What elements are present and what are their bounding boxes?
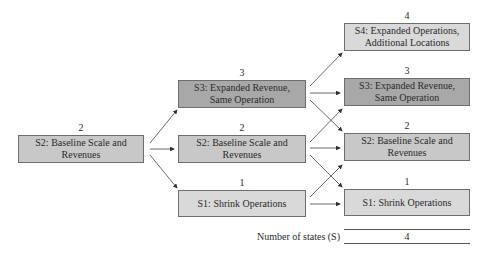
col2-s3-box: S3: Expanded Revenue, Same Operation: [344, 78, 470, 106]
footer-bottom-rule: [344, 243, 470, 244]
col0-s2-number: 2: [71, 122, 91, 133]
col0-s2-box: S2: Baseline Scale and Revenues: [18, 135, 144, 163]
col2-s2-number: 2: [397, 120, 417, 131]
col2-s2-label: S2: Baseline Scale and Revenues: [348, 135, 466, 159]
col2-s1-label: S1: Shrink Operations: [363, 197, 452, 209]
col2-s2-box: S2: Baseline Scale and Revenues: [344, 133, 470, 161]
col2-s4-number: 4: [397, 10, 417, 21]
col0-s2-label: S2: Baseline Scale and Revenues: [22, 137, 140, 161]
col1-s3-box: S3: Expanded Revenue, Same Operation: [178, 80, 306, 108]
col2-s1-number: 1: [397, 176, 417, 187]
col1-s3-label: S3: Expanded Revenue, Same Operation: [182, 82, 302, 106]
number-of-states-value: 4: [344, 231, 470, 242]
col2-s3-number: 3: [397, 65, 417, 76]
col1-s1-label: S1: Shrink Operations: [198, 198, 287, 210]
footer-top-rule: [344, 229, 470, 230]
col2-s1-box: S1: Shrink Operations: [344, 189, 470, 216]
col1-s2-label: S2: Baseline Scale and Revenues: [182, 137, 302, 161]
col1-s1-box: S1: Shrink Operations: [178, 190, 306, 217]
col1-s1-number: 1: [232, 177, 252, 188]
col2-s3-label: S3: Expanded Revenue, Same Operation: [348, 80, 466, 104]
col2-s4-label: S4: Expanded Operations, Additional Loca…: [348, 25, 466, 49]
col1-s2-number: 2: [232, 122, 252, 133]
col1-s3-number: 3: [232, 67, 252, 78]
col1-s2-box: S2: Baseline Scale and Revenues: [178, 135, 306, 163]
number-of-states-label: Number of states (S): [240, 231, 340, 242]
col2-s4-box: S4: Expanded Operations, Additional Loca…: [344, 23, 470, 51]
